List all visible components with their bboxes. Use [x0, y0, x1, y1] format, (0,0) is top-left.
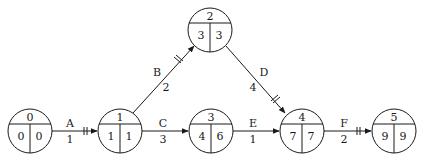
node-3-number: 3	[208, 111, 215, 124]
edge-E: E 1	[233, 117, 279, 146]
edge-A: A 1	[52, 117, 97, 146]
node-4-early: 7	[290, 130, 297, 143]
edge-D-duration: 4	[250, 81, 257, 94]
edge-A-duration: 1	[67, 133, 74, 146]
edge-E-activity: E	[249, 117, 257, 130]
node-1-late: 1	[126, 130, 133, 143]
node-0-number: 0	[27, 111, 34, 124]
node-1-early: 1	[108, 130, 115, 143]
edge-C-activity: C	[159, 117, 167, 130]
node-4-number: 4	[299, 111, 306, 124]
edge-C: C 3	[142, 117, 188, 146]
edge-B-activity: B	[153, 66, 161, 79]
node-3: 3 4 6	[189, 109, 233, 153]
node-2-early: 3	[198, 29, 205, 42]
edge-F: F 2	[324, 117, 371, 146]
node-0-early: 0	[18, 130, 25, 143]
edge-A-activity: A	[65, 117, 75, 130]
edge-C-duration: 3	[160, 133, 167, 146]
node-0-late: 0	[36, 130, 43, 143]
edge-B: B 2	[133, 46, 194, 113]
node-5: 5 9 9	[372, 109, 416, 153]
node-4-late: 7	[308, 130, 315, 143]
edge-B-duration: 2	[163, 81, 170, 94]
node-4: 4 7 7	[280, 109, 324, 153]
network-diagram: A 1 B 2 C 3 D 4	[0, 0, 423, 165]
node-2: 2 3 3	[188, 8, 232, 52]
node-2-late: 3	[216, 29, 223, 42]
node-5-late: 9	[400, 130, 407, 143]
node-0: 0 0 0	[8, 109, 52, 153]
node-2-number: 2	[207, 10, 214, 23]
edge-F-activity: F	[340, 117, 348, 130]
node-3-late: 6	[217, 130, 224, 143]
node-1-number: 1	[117, 111, 124, 124]
node-5-number: 5	[391, 111, 398, 124]
edge-E-duration: 1	[250, 133, 257, 146]
node-1: 1 1 1	[98, 109, 142, 153]
edge-D-activity: D	[260, 66, 269, 79]
edge-F-duration: 2	[341, 133, 348, 146]
edge-D: D 4	[226, 46, 285, 113]
node-5-early: 9	[382, 130, 389, 143]
node-3-early: 4	[199, 130, 206, 143]
